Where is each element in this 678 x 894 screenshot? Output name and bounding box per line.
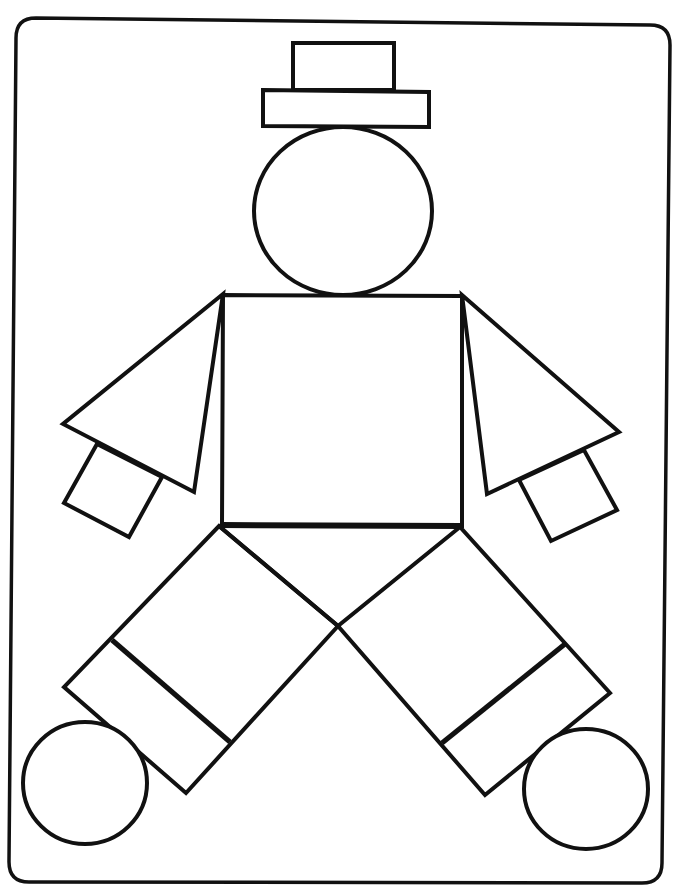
hat-crown [293,43,394,90]
head-circle [254,127,432,295]
right-arm-triangle [462,295,619,494]
waist-line [222,525,462,526]
right-foot-circle [524,729,648,849]
left-foot-circle [23,722,147,844]
hat-brim [263,90,429,127]
shape-figure-drawing [0,0,678,894]
body-square [222,295,462,526]
